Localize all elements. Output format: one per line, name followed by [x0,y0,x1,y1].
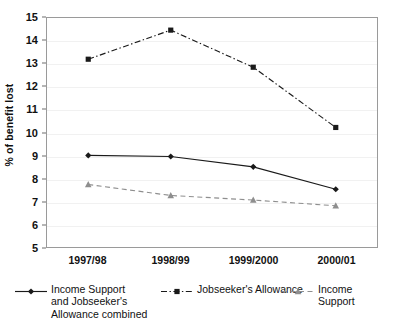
legend-label: Income Support and Jobseeker's Allowance… [51,283,147,320]
y-axis-tick-label: 13 [26,58,38,69]
data-point-marker [85,181,92,187]
data-point-marker [28,288,34,294]
y-axis-tick-label: 8 [32,173,38,184]
series-2 [86,28,339,130]
legend-entry[interactable]: Income Support [281,283,392,308]
legend-key-square-icon [160,284,194,297]
x-axis-tick-label: 1998/99 [152,254,190,266]
x-axis-tick-label: 2000/01 [318,254,356,266]
legend-key-triangle-icon [281,284,315,297]
legend-label: Income Support [318,283,392,308]
series-1 [85,152,339,192]
x-axis-tick-label: 1999/2000 [229,254,279,266]
data-point-marker [250,164,256,170]
line-chart: % of benefit lost 56789101112131415 1997… [0,0,395,335]
y-axis-tick-labels: 56789101112131415 [0,0,46,265]
legend-key-diamond-icon [14,284,48,297]
y-axis-tick-label: 10 [26,127,38,138]
data-point-marker [168,28,173,33]
y-axis-tick-label: 15 [26,12,38,23]
data-point-marker [85,152,91,158]
y-axis-tick-label: 6 [32,219,38,230]
y-axis-tick-label: 12 [26,81,38,92]
chart-legend: Income Support and Jobseeker's Allowance… [14,283,392,333]
plot-area [46,17,378,248]
x-axis-tick-label: 1997/98 [69,254,107,266]
series-3 [85,181,339,209]
series-line [88,155,336,189]
y-axis-tick-label: 11 [26,104,38,115]
data-point-marker [86,57,91,62]
data-point-marker [251,65,256,70]
y-axis-tick-label: 5 [32,243,38,254]
data-point-marker [333,186,339,192]
y-axis-tick-label: 14 [26,35,38,46]
data-series-layer [47,18,377,247]
data-point-marker [168,153,174,159]
y-axis-tick-label: 7 [32,196,38,207]
legend-entry[interactable]: Income Support and Jobseeker's Allowance… [14,283,147,320]
y-axis-tick-label: 9 [32,150,38,161]
data-point-marker [333,125,338,130]
series-line [88,30,336,127]
data-point-marker [174,289,179,294]
series-line [88,184,336,205]
